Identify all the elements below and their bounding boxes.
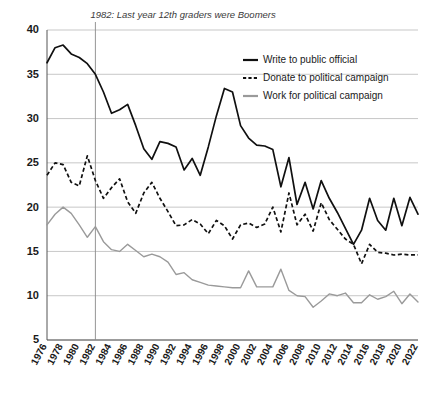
annotation-label: 1982: Last year 12th graders were Boomer… [90,9,276,20]
legend-label-1: Write to public official [263,54,357,65]
x-axis-tick-labels: 1976197819801982198419861988199019921994… [29,341,420,366]
chart-container: 403530252015105 1982: Last year 12th gra… [0,0,426,394]
y-axis-tick-label: 15 [27,245,39,257]
y-axis-tick-label: 25 [27,156,39,168]
y-axis-tick-label: 20 [27,201,39,213]
line-chart: 403530252015105 1982: Last year 12th gra… [0,0,426,394]
legend-label-2: Donate to political campaign [263,72,389,83]
y-axis-tick-labels: 403530252015105 [27,23,39,345]
series-paths-group [47,45,418,307]
y-axis-tick-label: 35 [27,68,39,80]
y-axis-tick-label: 40 [27,23,39,35]
chart-legend: Write to public officialDonate to politi… [243,54,389,101]
x-axis-tick-label: 2022 [400,341,420,366]
series-line-2 [47,156,418,264]
legend-label-3: Work for political campaign [263,90,383,101]
series-line-3 [47,207,418,307]
annotation-text-group: 1982: Last year 12th graders were Boomer… [90,9,276,20]
y-axis-tick-label: 10 [27,289,39,301]
y-axis-tick-label: 30 [27,112,39,124]
